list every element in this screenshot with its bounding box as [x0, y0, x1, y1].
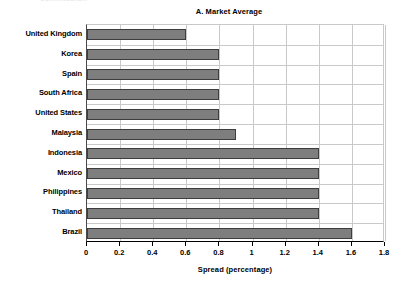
horizontal-gridline — [87, 203, 383, 204]
x-tick-mark — [86, 242, 87, 246]
horizontal-gridline — [87, 45, 383, 46]
x-tick-mark — [185, 242, 186, 246]
x-tick-label: 1.4 — [301, 248, 335, 257]
y-axis-label-malaysia: Malaysia — [2, 128, 82, 137]
bar — [87, 228, 352, 239]
horizontal-gridline — [87, 104, 383, 105]
x-tick-mark — [285, 242, 286, 246]
x-tick-mark — [152, 242, 153, 246]
x-tick-label: 1 — [235, 248, 269, 257]
x-tick-label: 1.8 — [367, 248, 401, 257]
vertical-gridline — [385, 25, 386, 241]
x-tick-mark — [119, 242, 120, 246]
horizontal-gridline — [87, 65, 383, 66]
x-tick-label: 0 — [69, 248, 103, 257]
y-axis-label-brazil: Brazil — [2, 227, 82, 236]
bar — [87, 129, 236, 140]
bar — [87, 109, 219, 120]
clipped-header-fragment: commission — [40, 0, 180, 4]
y-axis-label-thailand: Thailand — [2, 207, 82, 216]
bar — [87, 168, 319, 179]
x-axis-title: Spread (percentage) — [86, 265, 384, 274]
bar — [87, 148, 319, 159]
horizontal-gridline — [87, 124, 383, 125]
y-axis-label-philippines: Philippines — [2, 187, 82, 196]
y-axis-label-spain: Spain — [2, 69, 82, 78]
horizontal-gridline — [87, 144, 383, 145]
x-tick-mark — [218, 242, 219, 246]
bar — [87, 89, 219, 100]
y-axis-label-united-kingdom: United Kingdom — [2, 29, 82, 38]
bar — [87, 208, 319, 219]
x-tick-label: 0.8 — [201, 248, 235, 257]
x-tick-mark — [351, 242, 352, 246]
horizontal-gridline — [87, 164, 383, 165]
chart-title: A. Market Average — [0, 7, 403, 16]
x-tick-label: 1.2 — [268, 248, 302, 257]
y-axis-label-south-africa: South Africa — [2, 88, 82, 97]
x-tick-label: 0.2 — [102, 248, 136, 257]
bar — [87, 69, 219, 80]
horizontal-gridline — [87, 84, 383, 85]
chart-figure: commission A. Market Average United King… — [0, 0, 403, 291]
horizontal-gridline — [87, 184, 383, 185]
vertical-gridline — [352, 25, 353, 241]
bar — [87, 29, 186, 40]
y-axis-label-united-states: United States — [2, 108, 82, 117]
plot-area — [86, 24, 384, 242]
x-tick-mark — [384, 242, 385, 246]
x-tick-label: 0.4 — [135, 248, 169, 257]
x-tick-mark — [318, 242, 319, 246]
y-axis-label-indonesia: Indonesia — [2, 148, 82, 157]
bar — [87, 49, 219, 60]
horizontal-gridline — [87, 223, 383, 224]
x-tick-label: 0.6 — [168, 248, 202, 257]
vertical-gridline — [319, 25, 320, 241]
y-axis-label-mexico: Mexico — [2, 168, 82, 177]
x-tick-label: 1.6 — [334, 248, 368, 257]
x-tick-mark — [252, 242, 253, 246]
y-axis-label-korea: Korea — [2, 49, 82, 58]
bar — [87, 188, 319, 199]
